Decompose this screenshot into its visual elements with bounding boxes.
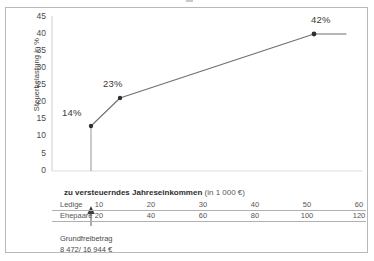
ehepaare-tick-60: 60 [192,211,214,220]
grundfreibetrag-label: Grundfreibetrag [60,234,113,243]
ledige-tick-40: 40 [244,200,266,209]
ledige-tick-60: 60 [348,200,370,209]
x-axis-row-ledige-name: Ledige [60,200,83,209]
data-line [91,34,346,126]
ledige-tick-10: 10 [88,200,110,209]
ehepaare-tick-80: 80 [244,211,266,220]
ehepaare-tick-100: 100 [296,211,318,220]
grundfreibetrag-value: 8 472/ 16 944 € [60,245,112,254]
y-tick-35: 35 [24,46,46,55]
point-label-14: 14% [62,107,82,118]
y-tick-30: 30 [24,63,46,72]
x-axis-title-main: zu versteuerndes Jahreseinkommen [64,188,202,197]
y-tick-25: 25 [24,80,46,89]
y-tick-40: 40 [24,29,46,38]
ehepaare-tick-40: 40 [140,211,162,220]
x-axis-title-unit: (in 1 000 €) [205,188,245,197]
ehepaare-tick-20: 20 [88,211,110,220]
data-point-14 [89,124,93,128]
ledige-tick-30: 30 [192,200,214,209]
y-tick-0: 0 [24,166,46,175]
chart-screenshot: Steuerbelastung in % 45 40 35 30 25 20 1… [0,0,374,261]
point-label-23: 23% [103,78,123,89]
ledige-tick-20: 20 [140,200,162,209]
point-label-42: 42% [311,14,331,25]
chart-frame: Steuerbelastung in % 45 40 35 30 25 20 1… [5,7,368,253]
data-point-42 [312,32,317,37]
top-edge-artifact [186,0,193,2]
y-tick-5: 5 [24,149,46,158]
x-axis-row-ehepaare: Ehepaare 20 40 60 80 100 120 [52,210,366,222]
y-tick-15: 15 [24,114,46,123]
ehepaare-tick-120: 120 [348,211,370,220]
y-tick-10: 10 [24,131,46,140]
y-tick-45: 45 [24,12,46,21]
x-axis-title: zu versteuerndes Jahreseinkommen (in 1 0… [64,188,245,197]
ledige-tick-50: 50 [296,200,318,209]
y-tick-20: 20 [24,97,46,106]
data-point-23 [118,96,122,100]
